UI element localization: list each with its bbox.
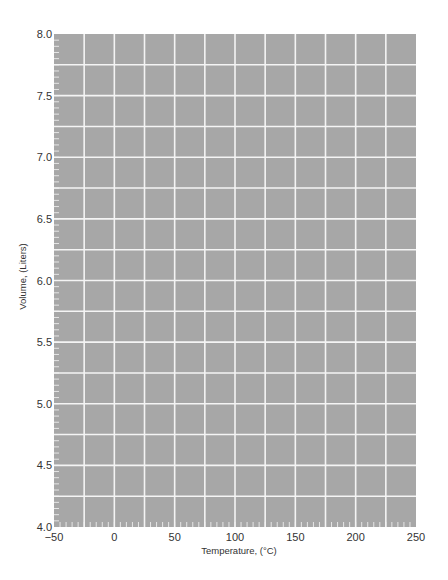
x-tick-label: 200 [346, 531, 364, 543]
y-tick-label: 8.0 [37, 28, 52, 40]
y-tick-label: 5.0 [37, 398, 52, 410]
y-tick-label: 6.0 [37, 275, 52, 287]
y-tick-label: 5.5 [37, 336, 52, 348]
graph-paper-chart: −50050100150200250 4.04.55.05.56.06.57.0… [0, 0, 448, 580]
x-tick-label: 150 [286, 531, 304, 543]
y-tick-label: 6.5 [37, 213, 52, 225]
y-axis-tick-labels: 4.04.55.05.56.06.57.07.58.0 [37, 28, 52, 533]
y-axis-title: Volume, (Liters) [17, 243, 28, 310]
x-tick-label: 50 [169, 531, 181, 543]
x-tick-label: 250 [407, 531, 425, 543]
x-axis-title: Temperature, (°C) [201, 545, 277, 556]
y-tick-label: 7.0 [37, 151, 52, 163]
x-tick-label: 0 [111, 531, 117, 543]
y-tick-label: 7.5 [37, 90, 52, 102]
y-tick-label: 4.5 [37, 459, 52, 471]
x-tick-label: 100 [226, 531, 244, 543]
y-tick-label: 4.0 [37, 521, 52, 533]
x-axis-tick-labels: −50050100150200250 [45, 531, 426, 543]
